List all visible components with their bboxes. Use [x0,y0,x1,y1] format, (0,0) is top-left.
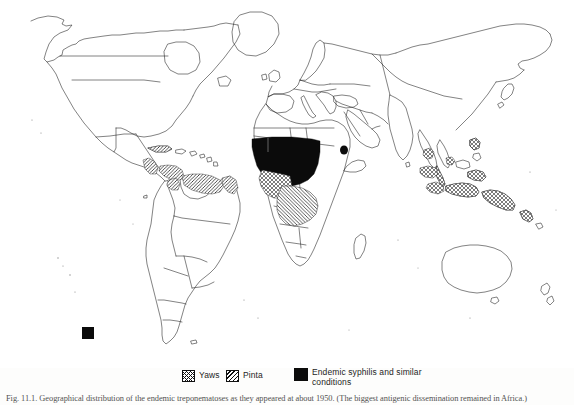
region-south-america [144,176,240,344]
map-legend: Yaws Pinta Endemic syphilis and similar … [182,368,432,390]
legend-item-pinta: Pinta [226,370,263,382]
map-marker-endemic-syphilis-pacific [82,327,94,339]
legend-label-yaws: Yaws [199,370,220,381]
solid-black-swatch-icon [294,368,308,381]
region-asia [336,24,552,187]
figure-caption-clip: Fig. 11.1. Geographical distribution of … [6,394,568,405]
figure-caption: Fig. 11.1. Geographical distribution of … [6,394,568,404]
cross-hatch-swatch-icon [182,370,195,382]
disease-area-yaws-southeast-asia [420,138,533,222]
legend-item-yaws: Yaws [182,370,220,382]
diagonal-hatch-swatch-icon [226,370,239,382]
world-map-svg [0,0,574,368]
legend-label-pinta: Pinta [243,370,263,381]
legend-label-endemic-syphilis: Endemic syphilis and similar conditions [312,368,430,387]
figure-root: Yaws Pinta Endemic syphilis and similar … [0,0,574,405]
disease-area-pinta-central-africa [277,186,318,226]
disease-area-pinta-central-america [143,146,184,180]
disease-area-endemic-syphilis-horn-of-africa [340,145,348,154]
region-europe [262,40,396,118]
region-north-america [31,12,279,181]
legend-item-endemic-syphilis: Endemic syphilis and similar conditions [294,368,430,387]
world-map-plate [0,0,574,368]
region-australasia [442,138,554,305]
